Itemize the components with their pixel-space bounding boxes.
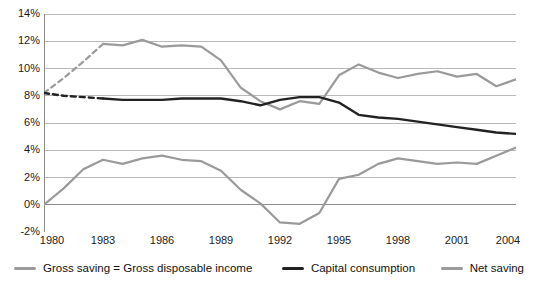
legend-swatch-icon [14,267,36,270]
series-line-dashed [44,44,103,93]
y-tick-label: 12% [2,35,40,46]
legend-swatch-icon [441,267,463,270]
y-tick-label: 10% [2,63,40,74]
x-tick-label: 1989 [209,234,233,246]
y-tick-label: 6% [2,117,40,128]
legend-swatch-icon [282,267,304,270]
y-tick-label: -2% [2,226,40,237]
legend-item: Capital consumption [282,262,415,275]
x-tick-label: 1983 [91,234,115,246]
x-tick-label: 2004 [496,234,520,246]
x-tick-label: 1998 [386,234,410,246]
chart-legend: Gross saving = Gross disposable incomeCa… [14,258,524,278]
x-tick-label: 1980 [40,234,64,246]
y-axis: -2%0%2%4%6%8%10%12%14% [0,14,40,232]
y-tick-label: 14% [2,8,40,19]
legend-label: Gross saving = Gross disposable income [43,262,252,275]
x-tick-label: 1986 [150,234,174,246]
chart-container: -2%0%2%4%6%8%10%12%14% 19801983198619891… [0,0,536,288]
x-tick-label: 2001 [445,234,469,246]
legend-label: Net saving [470,262,524,275]
x-axis: 198019831986198919921995199820012004 [44,234,516,250]
x-tick-label: 1992 [268,234,292,246]
x-tick-label: 1995 [327,234,351,246]
legend-label: Capital consumption [311,262,415,275]
plot-area [44,14,516,232]
series-line-dashed [44,93,103,98]
series-lines [44,14,516,232]
y-tick-label: 0% [2,199,40,210]
y-tick-label: 4% [2,144,40,155]
legend-item: Gross saving = Gross disposable income [14,262,252,275]
series-line [44,148,516,224]
y-tick-label: 2% [2,172,40,183]
y-tick-label: 8% [2,90,40,101]
legend-item: Net saving [441,262,524,275]
